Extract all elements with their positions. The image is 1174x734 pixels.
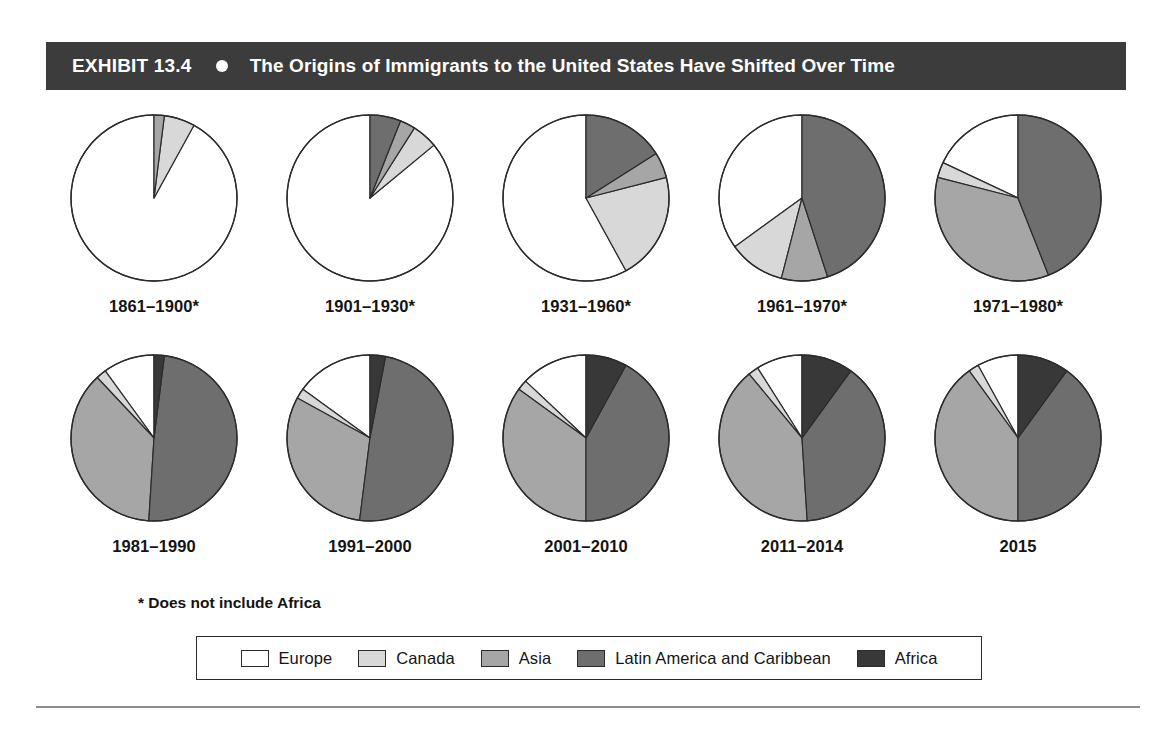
- pie-chart: [64, 348, 244, 528]
- pie-chart-period-label: 2001–2010: [544, 537, 628, 556]
- pie-chart-row-2: 1981–19901991–20002001–20102011–20142015: [46, 348, 1126, 556]
- pie-chart-period-label: 1971–1980*: [973, 297, 1063, 316]
- pie-chart: [712, 348, 892, 528]
- exhibit-number: EXHIBIT 13.4: [72, 55, 192, 77]
- legend-item: Europe: [241, 649, 333, 668]
- pie-chart-cell: 2015: [910, 348, 1126, 556]
- pie-chart: [280, 108, 460, 288]
- legend-swatch-icon: [358, 650, 386, 667]
- pie-chart-period-label: 1901–1930*: [325, 297, 415, 316]
- pie-chart-cell: 2001–2010: [478, 348, 694, 556]
- pie-chart-cell: 1861–1900*: [46, 108, 262, 316]
- legend-label: Canada: [396, 649, 454, 668]
- pie-chart: [928, 108, 1108, 288]
- pie-chart-row-1: 1861–1900*1901–1930*1931–1960*1961–1970*…: [46, 108, 1126, 316]
- exhibit-figure: EXHIBIT 13.4 The Origins of Immigrants t…: [0, 0, 1174, 734]
- legend-item: Latin America and Caribbean: [577, 649, 831, 668]
- pie-chart: [496, 108, 676, 288]
- legend: EuropeCanadaAsiaLatin America and Caribb…: [196, 636, 982, 680]
- pie-chart: [280, 348, 460, 528]
- pie-chart-period-label: 1961–1970*: [757, 297, 847, 316]
- legend-item: Canada: [358, 649, 454, 668]
- legend-label: Asia: [519, 649, 552, 668]
- legend-label: Europe: [279, 649, 333, 668]
- pie-chart-cell: 2011–2014: [694, 348, 910, 556]
- legend-item: Asia: [481, 649, 552, 668]
- footnote-text: * Does not include Africa: [138, 594, 321, 612]
- pie-chart-period-label: 2011–2014: [761, 537, 844, 556]
- exhibit-title: The Origins of Immigrants to the United …: [250, 55, 895, 77]
- pie-chart-cell: 1961–1970*: [694, 108, 910, 316]
- legend-swatch-icon: [577, 650, 605, 667]
- pie-chart-cell: 1981–1990: [46, 348, 262, 556]
- bottom-divider: [36, 706, 1140, 708]
- bullet-dot-icon: [216, 60, 228, 72]
- pie-chart: [712, 108, 892, 288]
- pie-chart-cell: 1901–1930*: [262, 108, 478, 316]
- pie-chart-cell: 1931–1960*: [478, 108, 694, 316]
- pie-chart-period-label: 1931–1960*: [541, 297, 631, 316]
- pie-chart-cell: 1991–2000: [262, 348, 478, 556]
- pie-chart-cell: 1971–1980*: [910, 108, 1126, 316]
- pie-chart: [928, 348, 1108, 528]
- legend-label: Latin America and Caribbean: [615, 649, 831, 668]
- pie-slice-latin-america-and-caribbean: [149, 356, 237, 521]
- pie-chart-period-label: 1981–1990: [112, 537, 196, 556]
- legend-swatch-icon: [241, 650, 269, 667]
- pie-chart-period-label: 1991–2000: [328, 537, 412, 556]
- pie-chart: [64, 108, 244, 288]
- pie-chart: [496, 348, 676, 528]
- pie-chart-period-label: 1861–1900*: [109, 297, 199, 316]
- legend-swatch-icon: [481, 650, 509, 667]
- pie-chart-period-label: 2015: [999, 537, 1036, 556]
- legend-item: Africa: [857, 649, 938, 668]
- legend-swatch-icon: [857, 650, 885, 667]
- legend-label: Africa: [895, 649, 938, 668]
- exhibit-header-band: EXHIBIT 13.4 The Origins of Immigrants t…: [46, 42, 1126, 90]
